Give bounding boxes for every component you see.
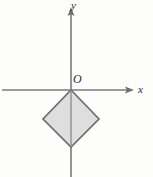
coordinate-plane-figure: y x O: [0, 0, 153, 177]
coordinate-plane-svg: [0, 0, 153, 177]
origin-label: O: [73, 73, 82, 85]
x-axis-label: x: [138, 84, 143, 95]
y-axis-label: y: [71, 0, 76, 11]
